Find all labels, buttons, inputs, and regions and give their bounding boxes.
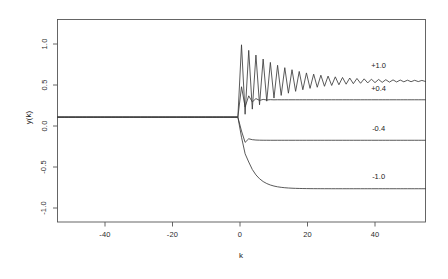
series-annotation-minus-1-0: -1.0 — [372, 172, 385, 181]
y-axis-title: y(k) — [22, 113, 35, 122]
series-annotation-minus-0-4: -0.4 — [372, 123, 385, 132]
x-axis-title: k — [239, 251, 243, 260]
series-line-minus-1-0 — [58, 117, 426, 189]
y-tick-label-5: -1.0 — [36, 204, 50, 213]
series-annotation-plus-0-4: +0.4 — [371, 84, 386, 93]
plot-canvas — [0, 0, 448, 279]
x-tick-label-3: 0 — [238, 230, 242, 239]
series-annotation-plus-1-0: +1.0 — [371, 61, 386, 70]
x-tick-label-4: 20 — [303, 230, 312, 239]
series-line-plus-1-0 — [58, 45, 426, 117]
y-tick-label-3: 0.0 — [39, 122, 50, 131]
x-tick-label-5: 40 — [371, 230, 380, 239]
x-tick-label-1: -40 — [99, 230, 110, 239]
chart-figure: 1.0 0.5 0.0 -0.5 -1.0 -40 -20 0 20 40 k … — [0, 0, 448, 279]
y-tick-label-1: 1.0 — [39, 40, 50, 49]
x-axis-ticks — [105, 222, 375, 227]
x-tick-label-2: -20 — [167, 230, 178, 239]
y-tick-label-4: -0.5 — [36, 163, 50, 172]
y-tick-label-2: 0.5 — [39, 81, 50, 90]
y-axis-ticks — [53, 44, 58, 208]
